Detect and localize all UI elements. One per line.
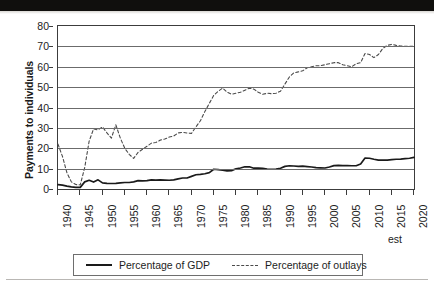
x-tick-mark — [124, 190, 125, 195]
y-tick-mark — [49, 148, 53, 149]
legend-label-gdp: Percentage of GDP — [119, 259, 210, 271]
x-tick-mark — [324, 190, 325, 195]
gridline — [58, 67, 414, 68]
x-tick-label: 1975 — [217, 205, 229, 228]
x-tick-mark — [168, 190, 169, 195]
gridline — [58, 148, 414, 149]
x-tick-mark — [79, 190, 80, 195]
y-tick-mark — [49, 87, 53, 88]
y-tick-mark — [49, 169, 53, 170]
x-tick-mark — [146, 190, 147, 195]
x-axis-tick-labels: 1940194519501955196019651970197519801985… — [57, 196, 415, 230]
x-tick-label: 1960 — [150, 205, 162, 228]
x-tick-label: 2010 — [373, 205, 385, 228]
gridline — [58, 46, 414, 47]
x-tick-label: 1985 — [261, 205, 273, 228]
x-tick-mark — [346, 190, 347, 195]
x-tick-mark — [391, 190, 392, 195]
y-tick-mark — [49, 189, 53, 190]
page-divider-rule — [6, 279, 428, 280]
y-tick-label: 30 — [37, 122, 49, 134]
y-tick-mark — [49, 67, 53, 68]
x-tick-label: 2020 — [417, 205, 429, 228]
series-line-gdp — [58, 157, 414, 187]
y-tick-label: 50 — [37, 81, 49, 93]
y-tick-mark — [49, 128, 53, 129]
x-tick-label: 1955 — [128, 205, 140, 228]
gridline — [58, 169, 414, 170]
y-tick-label: 60 — [37, 61, 49, 73]
x-tick-mark — [102, 190, 103, 195]
y-tick-label: 40 — [37, 102, 49, 114]
legend-item-gdp[interactable]: Percentage of GDP — [86, 259, 210, 271]
x-axis-ticks — [57, 190, 415, 195]
solid-line-icon — [86, 261, 112, 269]
x-tick-label: 1990 — [284, 205, 296, 228]
legend-item-outlays[interactable]: Percentage of outlays — [232, 259, 367, 271]
x-tick-label: 1940 — [61, 205, 73, 228]
y-tick-label: 10 — [37, 163, 49, 175]
y-tick-mark — [49, 46, 53, 47]
dashed-line-icon — [232, 261, 258, 269]
gridline — [58, 87, 414, 88]
x-tick-mark — [257, 190, 258, 195]
x-tick-label: 1950 — [106, 205, 118, 228]
gridline — [58, 128, 414, 129]
y-tick-mark — [49, 26, 53, 27]
gridline — [58, 108, 414, 109]
x-tick-mark — [191, 190, 192, 195]
x-tick-mark — [213, 190, 214, 195]
x-tick-label: 2015 — [395, 205, 407, 228]
x-axis-est-note: est — [388, 233, 402, 245]
x-tick-mark — [235, 190, 236, 195]
x-tick-mark — [280, 190, 281, 195]
legend-label-outlays: Percentage of outlays — [265, 259, 367, 271]
y-axis-tick-labels: 01020304050607080 — [0, 25, 53, 190]
x-tick-mark — [302, 190, 303, 195]
x-tick-mark — [413, 190, 414, 195]
x-tick-label: 1945 — [83, 205, 95, 228]
y-tick-mark — [49, 108, 53, 109]
y-tick-label: 20 — [37, 142, 49, 154]
scan-artifact-bar — [0, 0, 434, 11]
x-tick-mark — [369, 190, 370, 195]
y-tick-label: 80 — [37, 20, 49, 32]
y-tick-label: 70 — [37, 40, 49, 52]
x-tick-label: 1980 — [239, 205, 251, 228]
chart-legend: Percentage of GDP Percentage of outlays — [73, 254, 363, 276]
x-tick-label: 1965 — [172, 205, 184, 228]
x-tick-label: 2005 — [350, 205, 362, 228]
x-tick-label: 2000 — [328, 205, 340, 228]
x-tick-label: 1970 — [195, 205, 207, 228]
x-tick-mark — [57, 190, 58, 195]
chart-figure: Payments to individuals 0102030405060708… — [0, 14, 434, 279]
x-tick-label: 1995 — [306, 205, 318, 228]
plot-area — [57, 25, 415, 190]
